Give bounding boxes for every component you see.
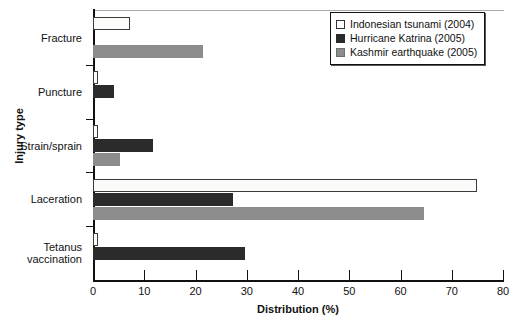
bar [93, 207, 424, 220]
bar [93, 193, 233, 206]
x-tick [93, 270, 94, 281]
y-tick [86, 65, 93, 66]
legend-label: Indonesian tsunami (2004) [350, 18, 474, 30]
x-axis-label: Distribution (%) [93, 303, 503, 315]
bar [93, 85, 114, 98]
x-tick [247, 270, 248, 281]
x-tick-label: 10 [124, 285, 164, 297]
legend-item: Kashmir earthquake (2005) [336, 45, 477, 59]
bar [93, 17, 130, 30]
y-tick [86, 172, 93, 173]
bar [93, 139, 153, 152]
y-tick-label: Laceration [0, 193, 82, 205]
x-tick-label: 0 [73, 285, 113, 297]
x-tick [298, 270, 299, 281]
x-tick-label: 20 [176, 285, 216, 297]
y-tick [86, 119, 93, 120]
bar [93, 247, 245, 260]
legend-swatch-icon [336, 20, 345, 29]
x-tick-label: 70 [432, 285, 472, 297]
x-tick [349, 270, 350, 281]
legend-swatch-icon [336, 34, 345, 43]
legend-item: Hurricane Katrina (2005) [336, 31, 477, 45]
chart-legend: Indonesian tsunami (2004)Hurricane Katri… [330, 12, 485, 65]
x-tick-label: 60 [381, 285, 421, 297]
x-tick-label: 50 [329, 285, 369, 297]
legend-label: Kashmir earthquake (2005) [350, 46, 477, 58]
y-tick-label: Strain/sprain [0, 140, 82, 152]
chart-figure: Injury type Distribution (%) 01020304050… [0, 0, 514, 324]
x-tick [503, 270, 504, 281]
x-tick [401, 270, 402, 281]
bar [93, 125, 98, 138]
y-tick-label: Tetanusvaccination [0, 241, 82, 265]
plot-top-border [93, 10, 504, 11]
y-tick-label: Puncture [0, 86, 82, 98]
bar [93, 45, 203, 58]
bar [93, 233, 98, 246]
y-tick-label: Fracture [0, 32, 82, 44]
y-tick [86, 226, 93, 227]
x-tick-label: 30 [227, 285, 267, 297]
legend-label: Hurricane Katrina (2005) [350, 32, 465, 44]
x-tick [144, 270, 145, 281]
legend-swatch-icon [336, 48, 345, 57]
x-tick-label: 80 [483, 285, 514, 297]
bar [93, 179, 477, 192]
legend-item: Indonesian tsunami (2004) [336, 17, 477, 31]
x-tick [196, 270, 197, 281]
bar [93, 71, 98, 84]
x-tick [452, 270, 453, 281]
bar [93, 153, 120, 166]
x-tick-label: 40 [278, 285, 318, 297]
